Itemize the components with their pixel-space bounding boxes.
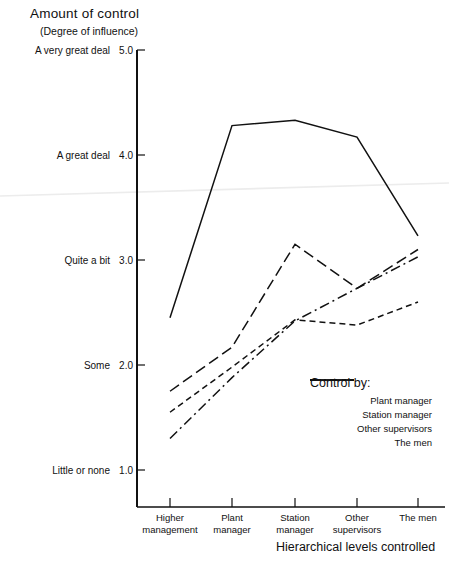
- legend-item: Other supervisors: [310, 421, 432, 435]
- legend-item-label: Station manager: [362, 409, 432, 420]
- x-tick-label: Plantmanager: [213, 512, 251, 536]
- legend-item-label: The men: [395, 437, 433, 448]
- line-chart: Amount of control (Degree of influence) …: [0, 0, 449, 567]
- series-line-plant-manager: [170, 120, 418, 317]
- y-tick-value: 5.0: [111, 45, 133, 56]
- y-tick-label: A very great deal: [35, 45, 110, 56]
- scan-artifact-line: [0, 183, 449, 196]
- y-tick-value: 2.0: [111, 360, 133, 371]
- x-tick-label-line2: supervisors: [333, 524, 382, 536]
- legend-swatch-short-dash: [310, 376, 354, 384]
- x-tick-label: The men: [399, 512, 437, 524]
- legend: Control by: Plant managerStation manager…: [310, 376, 432, 449]
- y-tick-value: 3.0: [111, 255, 133, 266]
- y-tick-label: Quite a bit: [64, 255, 110, 266]
- y-tick-label: A great deal: [57, 150, 110, 161]
- y-tick-label: Some: [84, 360, 110, 371]
- y-tick-label: Little or none: [52, 465, 110, 476]
- x-tick-label-line1: Plant: [213, 512, 251, 524]
- legend-item-label: Plant manager: [370, 395, 432, 406]
- x-tick-label-line1: Other: [333, 512, 382, 524]
- legend-items: Plant managerStation managerOther superv…: [310, 393, 432, 449]
- x-tick-label-line1: Station: [276, 512, 314, 524]
- legend-item: Station manager: [310, 407, 432, 421]
- x-tick-label-line2: management: [142, 524, 197, 536]
- x-tick-label-line1: Higher: [142, 512, 197, 524]
- x-tick-label: Othersupervisors: [333, 512, 382, 536]
- y-tick-value: 1.0: [111, 465, 133, 476]
- x-tick-label-line1: The men: [399, 512, 437, 524]
- legend-item: The men: [310, 435, 432, 449]
- legend-item: Plant manager: [310, 393, 432, 407]
- legend-item-label: Other supervisors: [357, 423, 432, 434]
- y-tick-value: 4.0: [111, 150, 133, 161]
- series-line-station-manager: [170, 244, 418, 391]
- x-tick-label-line2: manager: [213, 524, 251, 536]
- x-tick-label: Highermanagement: [142, 512, 197, 536]
- x-tick-label-line2: manager: [276, 524, 314, 536]
- x-tick-label: Stationmanager: [276, 512, 314, 536]
- plot-area: [0, 0, 449, 567]
